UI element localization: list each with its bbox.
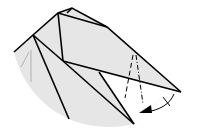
paper-shaded-region	[14, 8, 181, 127]
origami-diagram	[0, 0, 199, 139]
origami-fold-illustration	[0, 0, 199, 139]
